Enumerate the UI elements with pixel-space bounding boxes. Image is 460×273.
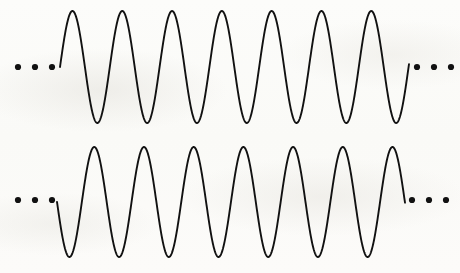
wave-canvas (0, 0, 460, 273)
bottom-wave-group (15, 147, 449, 257)
ellipsis-dot (15, 64, 21, 70)
ellipsis-dot (49, 64, 55, 70)
ellipsis-left-bottom (15, 197, 55, 203)
waveform-figure (0, 0, 460, 273)
ellipsis-dot (414, 64, 420, 70)
ellipsis-dot (426, 197, 432, 203)
ellipsis-dot (431, 64, 437, 70)
ellipsis-left-top (15, 64, 55, 70)
ellipsis-dot (49, 197, 55, 203)
ellipsis-dot (443, 197, 449, 203)
bottom-wave-path (57, 147, 405, 257)
ellipsis-right-top (414, 64, 454, 70)
top-wave-group (15, 11, 454, 123)
ellipsis-right-bottom (409, 197, 449, 203)
ellipsis-dot (32, 64, 38, 70)
ellipsis-dot (409, 197, 415, 203)
ellipsis-dot (448, 64, 454, 70)
ellipsis-dot (32, 197, 38, 203)
ellipsis-dot (15, 197, 21, 203)
top-wave-path (60, 11, 409, 123)
